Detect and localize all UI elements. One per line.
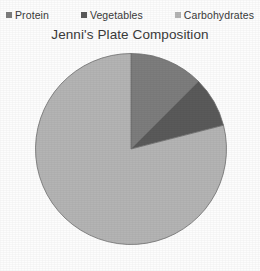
legend-label-protein: Protein: [15, 9, 49, 21]
legend-swatch-vegetables-icon: [81, 12, 87, 18]
legend-label-vegetables: Vegetables: [90, 9, 143, 21]
chart-title: Jenni's Plate Composition: [0, 27, 260, 43]
pie-slice-group: [36, 54, 227, 245]
pie-svg: [35, 53, 227, 245]
legend-swatch-carbohydrates-icon: [175, 12, 181, 18]
legend-item-vegetables[interactable]: Vegetables: [81, 9, 143, 21]
legend-label-carbohydrates: Carbohydrates: [184, 9, 254, 21]
legend-item-carbohydrates[interactable]: Carbohydrates: [175, 9, 254, 21]
legend-swatch-protein-icon: [6, 12, 12, 18]
pie-chart-figure: Protein Vegetables Carbohydrates Jenni's…: [0, 0, 260, 271]
chart-legend: Protein Vegetables Carbohydrates: [0, 7, 260, 23]
pie-plot-area: [35, 53, 227, 245]
legend-item-protein[interactable]: Protein: [6, 9, 49, 21]
